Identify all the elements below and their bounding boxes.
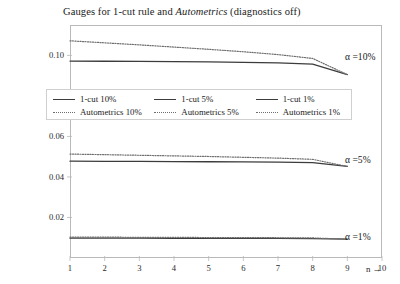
chart-figure: Gauges for 1-cut rule and Autometrics (d… — [0, 0, 400, 284]
legend-item-1cut-1: 1-cut 1% — [250, 92, 351, 106]
y-tick-label: 0.02 — [30, 212, 64, 222]
legend-line-icon — [154, 109, 176, 116]
x-tick-label: 1 — [60, 263, 80, 273]
legend-label: 1-cut 5% — [181, 94, 213, 104]
series-line — [70, 61, 347, 75]
x-tick-label: 4 — [164, 263, 184, 273]
legend-line-icon — [53, 96, 75, 103]
x-tick-label: 7 — [268, 263, 288, 273]
legend-item-autometrics-10: Autometrics 10% — [47, 105, 148, 119]
series-line — [70, 41, 347, 75]
legend-item-1cut-5: 1-cut 5% — [148, 92, 249, 106]
legend-label: 1-cut 1% — [283, 94, 315, 104]
y-tick-label: 0.04 — [30, 172, 64, 182]
series-line — [70, 154, 347, 166]
x-axis-label: n → — [366, 264, 381, 274]
alpha-annotation: α =1% — [345, 231, 371, 242]
legend-label: Autometrics 1% — [283, 107, 340, 117]
y-tick-label: 0.10 — [30, 50, 64, 60]
y-tick-label: 0.06 — [30, 131, 64, 141]
x-tick-label: 8 — [303, 263, 323, 273]
x-tick-label: 9 — [337, 263, 357, 273]
legend-row-dotted: Autometrics 10% Autometrics 5% Autometri… — [47, 105, 351, 119]
x-tick-label: 6 — [233, 263, 253, 273]
x-tick-label: 5 — [199, 263, 219, 273]
legend-label: 1-cut 10% — [80, 94, 116, 104]
x-tick-label: 2 — [95, 263, 115, 273]
legend-label: Autometrics 5% — [181, 107, 238, 117]
legend-line-icon — [256, 109, 278, 116]
legend-item-autometrics-5: Autometrics 5% — [148, 105, 249, 119]
legend-line-icon — [53, 109, 75, 116]
x-tick-label: 3 — [129, 263, 149, 273]
legend-line-icon — [154, 96, 176, 103]
legend-row-solid: 1-cut 10% 1-cut 5% 1-cut 1% — [47, 92, 351, 106]
chart-legend: 1-cut 10% 1-cut 5% 1-cut 1% Autometrics … — [46, 89, 352, 120]
legend-item-1cut-10: 1-cut 10% — [47, 92, 148, 106]
legend-item-autometrics-1: Autometrics 1% — [250, 105, 351, 119]
alpha-annotation: α =5% — [345, 153, 371, 164]
legend-line-icon — [256, 96, 278, 103]
series-line — [70, 161, 347, 166]
chart-canvas — [0, 0, 400, 284]
alpha-annotation: α =10% — [345, 51, 375, 62]
legend-label: Autometrics 10% — [80, 107, 142, 117]
